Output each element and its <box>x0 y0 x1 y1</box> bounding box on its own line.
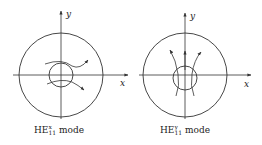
y-axis-label: y <box>189 11 196 21</box>
left-caption: HEx11 mode <box>34 124 84 136</box>
caption-base: HE <box>34 125 48 135</box>
caption-suffix: mode <box>182 125 210 135</box>
caption-subscript: 11 <box>174 130 182 136</box>
caption-subscript: 11 <box>48 130 56 136</box>
caption-suffix: mode <box>56 125 84 135</box>
field-line-lower <box>47 80 84 90</box>
field-line-upper <box>45 60 88 67</box>
x-axis-label: x <box>120 78 125 88</box>
left-diagram: y x <box>13 9 128 119</box>
caption-base: HE <box>160 125 174 135</box>
x-axis-label: x <box>244 79 249 89</box>
right-diagram: y x <box>139 11 251 119</box>
y-axis-label: y <box>65 9 72 19</box>
right-caption: HEy11 mode <box>160 124 210 136</box>
